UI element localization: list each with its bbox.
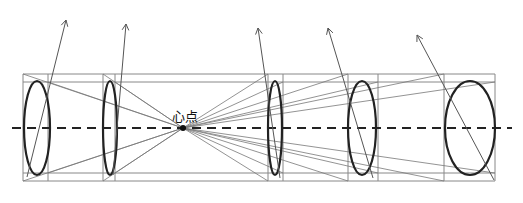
perspective-ray [115, 128, 183, 173]
arrow-shaft [417, 35, 494, 180]
arrow-shaft [27, 20, 66, 177]
center-point-dot [180, 125, 186, 131]
center-point-label: 心点 [172, 109, 198, 124]
diagram-canvas: 心点 [0, 0, 523, 203]
direction-arrows [27, 20, 494, 180]
perspective-diagram: 心点 [0, 0, 523, 203]
